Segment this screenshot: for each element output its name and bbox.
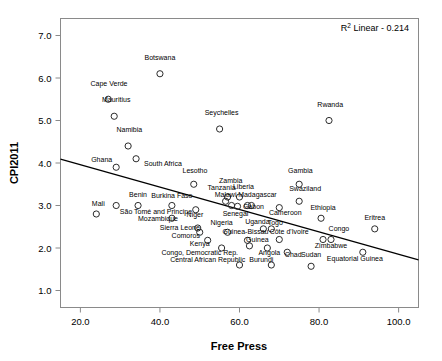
data-point [113,202,119,208]
plot-canvas: 20.040.060.080.0100.0 1.02.03.04.05.06.0… [0,0,442,361]
scatter-chart: 20.040.060.080.0100.0 1.02.03.04.05.06.0… [0,0,442,361]
data-point-label: South Africa [144,160,182,167]
x-axis-title: Free Press [211,340,267,352]
data-point-label: Swaziland [289,185,321,192]
data-point-label: Burundi [249,256,274,263]
data-point-label: Equatorial Guinea [327,255,383,263]
data-point-label: Ghana [91,156,112,163]
data-point-label: Comoros [172,232,201,239]
y-tick-label: 4.0 [38,158,51,169]
data-point-label: Mauritius [102,96,131,103]
r-squared-annotation: R2 Linear - 0.214 [341,22,409,34]
data-point-label: Lesotho [182,167,207,174]
data-point-label: Namibia [116,126,142,133]
data-point-label: Zimbabwe [315,242,347,249]
data-point-label: Eritrea [364,214,385,221]
data-point [157,71,163,77]
data-point-label: Kenya [190,240,210,248]
data-point [113,164,119,170]
data-point-label: Congo [329,225,350,233]
y-tick-label: 2.0 [38,243,51,254]
y-tick-label: 7.0 [38,30,51,41]
data-point-label: Senegal [223,210,249,218]
data-point-label: Sudan [301,251,321,258]
data-point-label: Cameroon [269,209,302,216]
y-axis-title: CPI2011 [8,142,20,184]
data-point [111,113,117,119]
data-point-label: Gabon [243,203,264,210]
x-tick-label: 60.0 [230,316,249,327]
plot-frame [61,19,419,308]
data-point-label: Cape Verde [91,80,128,88]
data-point [326,117,332,123]
data-point-labels: BotswanaCape VerdeMauritiusRwandaSeychel… [91,54,386,264]
data-point-label: Sierra Leone [160,224,200,231]
data-point-label: Botswana [145,54,176,61]
data-point-label: Madagascar [238,191,277,199]
data-point-label: Benin [129,191,147,198]
data-point-label: Seychelles [205,109,239,117]
data-point-label: Malawi [215,191,237,198]
data-point-label: Uganda [245,218,270,226]
data-point [93,211,99,217]
data-point-label: Liberia [233,183,254,190]
y-tick-label: 3.0 [38,200,51,211]
plot-border [61,19,419,308]
data-point-label: Central African Republic [170,256,246,264]
data-point-label: Guinea [246,236,269,243]
y-tick-label: 1.0 [38,285,51,296]
data-point [191,181,197,187]
data-point-label: Tanzania [208,184,236,191]
data-point-label: Mali [92,200,105,207]
data-point-label: Chad [285,251,302,258]
x-axis-ticks: 20.040.060.080.0100.0 [71,308,410,327]
data-point [276,236,282,242]
y-tick-label: 5.0 [38,115,51,126]
data-point-label: Rwanda [317,101,343,108]
data-point-label: Guinea-Bissau [223,228,269,235]
x-tick-label: 100.0 [387,316,411,327]
data-point-label: Burkina Faso [151,192,192,199]
x-tick-label: 20.0 [71,316,90,327]
data-point-label: Togo [268,219,283,227]
data-point-label: Ethiopia [310,204,335,212]
data-point-label: Nigeria [211,219,233,227]
r2-suffix: Linear - 0.214 [351,23,409,33]
data-point [296,198,302,204]
x-tick-label: 40.0 [151,316,170,327]
data-point [125,143,131,149]
data-point [133,156,139,162]
data-point [308,263,314,269]
data-point [372,226,378,232]
data-point [246,243,252,249]
y-tick-label: 6.0 [38,73,51,84]
data-point [217,126,223,132]
x-tick-label: 80.0 [310,316,329,327]
data-point-label: Côte d'Ivoire [270,228,309,235]
y-axis-ticks: 1.02.03.04.05.06.07.0 [38,30,60,296]
data-point [318,215,324,221]
data-point-label: Gambia [288,167,313,174]
data-point-label: Mozambique [138,215,178,223]
